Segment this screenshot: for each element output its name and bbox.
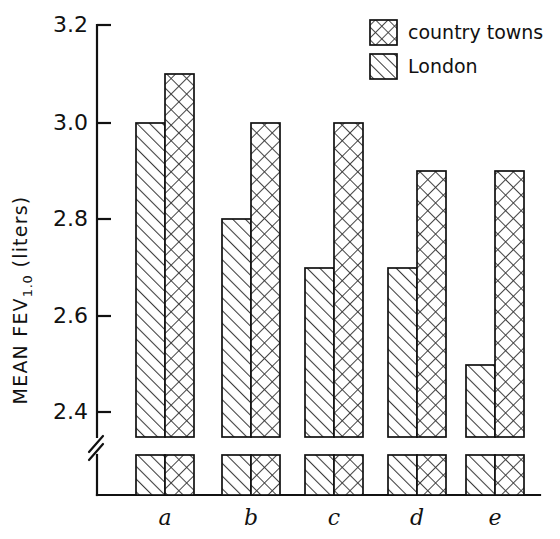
y-tick-label: 2.8 [53, 206, 88, 231]
bar-london-c [305, 268, 334, 437]
y-tick-group: 3.2 3.0 2.8 2.6 2.4 [53, 12, 111, 424]
y-tick-label: 3.2 [53, 12, 88, 37]
y-tick-label: 2.6 [53, 303, 88, 328]
bar-london-e [466, 365, 495, 437]
bar-country-towns-b-stub [251, 455, 280, 495]
bar-country-towns-d [417, 171, 446, 437]
bar-country-towns-c-stub [334, 455, 363, 495]
y-tick-2.6: 2.6 [53, 303, 111, 328]
bar-group-d [388, 171, 446, 495]
x-tick-label-a: a [158, 505, 171, 530]
bar-group-a [136, 74, 194, 495]
y-tick-2.8: 2.8 [53, 206, 111, 231]
y-axis-title: MEAN FEV1.0 (liters) [9, 196, 35, 405]
legend-label-london: London [408, 55, 478, 77]
x-tick-group: a b c d e [158, 505, 501, 530]
bar-london-a [136, 123, 165, 437]
bar-london-c-stub [305, 455, 334, 495]
bar-london-d-stub [388, 455, 417, 495]
bar-country-towns-a [165, 74, 194, 437]
bar-country-towns-c [334, 123, 363, 437]
y-axis-title-tail: (liters) [9, 196, 31, 275]
bar-group-c [305, 123, 363, 495]
y-tick-3.0: 3.0 [53, 110, 111, 135]
x-tick-label-b: b [244, 505, 258, 530]
legend-item-country-towns: country towns [370, 20, 543, 45]
bar-country-towns-b [251, 123, 280, 437]
y-tick-3.2: 3.2 [53, 12, 111, 37]
bar-group-b [222, 123, 280, 495]
x-tick-label-d: d [410, 505, 424, 530]
bar-london-b [222, 219, 251, 437]
legend-swatch-cross-hatch-icon [370, 20, 397, 45]
legend-item-london: London [370, 54, 478, 79]
bar-london-d [388, 268, 417, 437]
x-tick-label-c: c [328, 505, 340, 530]
bar-country-towns-a-stub [165, 455, 194, 495]
bar-country-towns-e [495, 171, 524, 437]
y-axis-title-subscript: 1.0 [20, 275, 35, 297]
bar-chart: MEAN FEV1.0 (liters) 3.2 3.0 [0, 0, 560, 539]
bar-country-towns-e-stub [495, 455, 524, 495]
bar-london-a-stub [136, 455, 165, 495]
svg-text:MEAN FEV1.0 (liters): MEAN FEV1.0 (liters) [9, 196, 35, 405]
y-tick-2.4: 2.4 [53, 399, 111, 424]
bar-country-towns-d-stub [417, 455, 446, 495]
legend: country towns London [370, 20, 543, 79]
y-axis-title-main: MEAN FEV [9, 297, 31, 404]
bar-london-b-stub [222, 455, 251, 495]
y-tick-label: 3.0 [53, 110, 88, 135]
bar-london-e-stub [466, 455, 495, 495]
x-tick-label-e: e [488, 505, 501, 530]
bar-group-e [466, 171, 524, 495]
legend-label-country-towns: country towns [408, 21, 543, 43]
legend-swatch-diagonal-hatch-icon [370, 54, 397, 79]
y-tick-label: 2.4 [53, 399, 88, 424]
chart-figure: MEAN FEV1.0 (liters) 3.2 3.0 [0, 0, 560, 539]
